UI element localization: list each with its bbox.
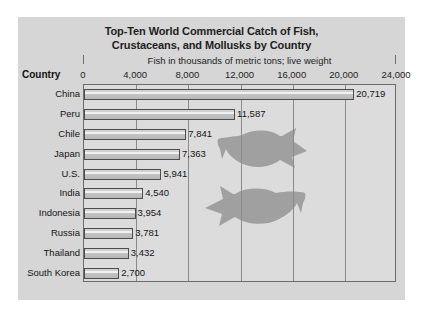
bar-value-label: 3,432 [131, 247, 155, 259]
bar-value-label: 7,363 [182, 148, 206, 160]
x-tick-label: 0 [80, 69, 85, 80]
bar-value-label: 7,841 [188, 128, 212, 140]
category-label: India [18, 187, 80, 198]
bar[interactable] [84, 208, 136, 219]
chart-figure: Top-Ten World Commercial Catch of Fish, … [18, 17, 405, 300]
bar[interactable] [84, 89, 354, 100]
x-tick-label: 20,000 [329, 69, 358, 80]
bar[interactable] [84, 129, 186, 140]
category-label: China [18, 88, 80, 99]
chart-title-line-1: Top-Ten World Commercial Catch of Fish, [105, 25, 319, 37]
bar-value-label: 4,540 [145, 187, 169, 199]
category-label: Chile [18, 128, 80, 139]
bar[interactable] [84, 248, 129, 259]
x-tick-label: 4,000 [123, 69, 147, 80]
x-axis-label: Fish in thousands of metric tons; live w… [83, 55, 396, 66]
bar-row: 3,781 [84, 228, 397, 239]
plot-area: 20,71911,5877,8417,3635,9414,5403,9543,7… [83, 84, 396, 282]
plot-inner: 20,71911,5877,8417,3635,9414,5403,9543,7… [84, 85, 395, 281]
bar-value-label: 11,587 [237, 108, 265, 120]
x-tick-label: 8,000 [175, 69, 199, 80]
y-axis-label: Country [22, 69, 84, 80]
category-label: Indonesia [18, 207, 80, 218]
bar-row: 3,954 [84, 208, 397, 219]
category-label: Russia [18, 227, 80, 238]
bar-value-label: 5,941 [163, 168, 187, 180]
bar-row: 4,540 [84, 188, 397, 199]
chart-title: Top-Ten World Commercial Catch of Fish, … [18, 24, 405, 52]
category-label: Japan [18, 148, 80, 159]
x-tick-label: 24,000 [381, 69, 410, 80]
bar-value-label: 2,700 [121, 267, 145, 279]
axis-caption-band: Fish in thousands of metric tons; live w… [83, 55, 396, 70]
category-label: U.S. [18, 168, 80, 179]
bar-value-label: 20,719 [356, 88, 385, 100]
bar-row: 5,941 [84, 169, 397, 180]
bar[interactable] [84, 149, 180, 160]
bar[interactable] [84, 169, 161, 180]
bar-row: 11,587 [84, 109, 397, 120]
bar[interactable] [84, 228, 133, 239]
bar-row: 20,719 [84, 89, 397, 100]
bar-value-label: 3,954 [138, 207, 162, 219]
bar[interactable] [84, 109, 235, 120]
bar[interactable] [84, 188, 143, 199]
bar[interactable] [84, 268, 119, 279]
chart-title-line-2: Crustaceans, and Mollusks by Country [18, 38, 405, 52]
bar-row: 7,363 [84, 149, 397, 160]
x-tick-label: 16,000 [277, 69, 306, 80]
bar-row: 2,700 [84, 268, 397, 279]
x-tick-label: 12,000 [225, 69, 254, 80]
y-axis-category-labels: ChinaPeruChileJapanU.S.IndiaIndonesiaRus… [18, 84, 80, 282]
bar-value-label: 3,781 [135, 227, 159, 239]
bar-row: 3,432 [84, 248, 397, 259]
x-axis-tick-labels: 04,0008,00012,00016,00020,00024,000 [83, 69, 396, 82]
category-label: South Korea [18, 267, 80, 278]
category-label: Peru [18, 108, 80, 119]
category-label: Thailand [18, 247, 80, 258]
bar-row: 7,841 [84, 129, 397, 140]
